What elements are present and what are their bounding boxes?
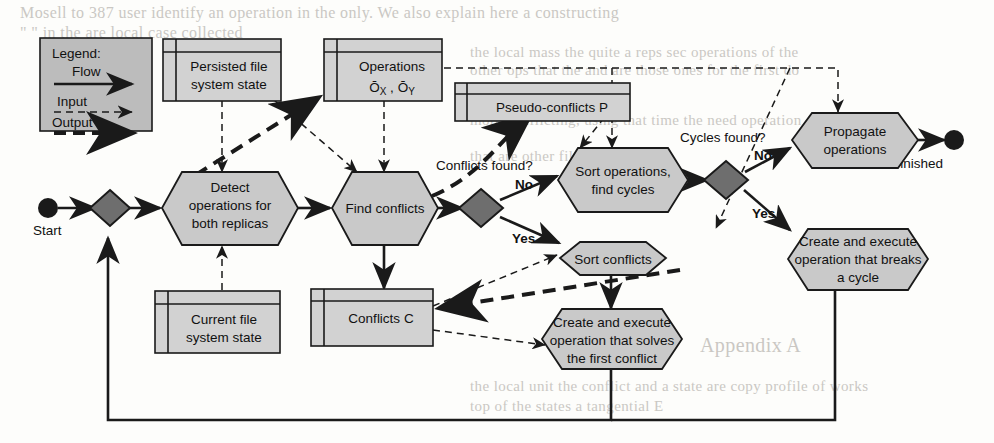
datastore-current-line2: system state [186, 330, 262, 345]
datastore-persisted-file-system-state: Persisted file system state [163, 39, 281, 101]
process-solveconflict-line3: the first conflict [567, 351, 657, 366]
operations-symbol-y: Ō [398, 80, 409, 95]
datastore-conflicts-c: Conflicts C [311, 289, 433, 346]
decision-conflicts-question: Conflicts found? [436, 158, 533, 173]
datastore-pseudo-conflicts: Pseudo-conflicts P [455, 83, 630, 121]
process-detect-operations: Detect operations for both replicas [162, 172, 298, 245]
process-sortops-line1: Sort operations, [575, 164, 670, 179]
datastore-pseudo-label: Pseudo-conflicts P [496, 100, 608, 115]
datastore-current-file-system-state: Current file system state [155, 291, 280, 353]
decision-cycles-question: Cycles found? [680, 130, 766, 145]
operations-symbol-x: Ō [369, 80, 380, 95]
datastore-operations: Operations ŌX , ŌY [324, 39, 442, 101]
edge-label-conflicts-no: No [515, 177, 533, 192]
datastore-persisted-line2: system state [191, 77, 267, 92]
process-sort-operations-find-cycles: Sort operations, find cycles [558, 148, 688, 212]
datastore-operations-title: Operations [359, 59, 425, 74]
start-label: Start [33, 223, 62, 238]
edge-input-operations-to-breakcycle [716, 68, 790, 228]
legend-output-label: Output [52, 115, 93, 130]
process-sortops-line2: find cycles [591, 182, 654, 197]
datastore-persisted-line1: Persisted file [190, 59, 267, 74]
process-propagate-line1: Propagate [824, 124, 886, 139]
edge-label-conflicts-yes: Yes [512, 231, 535, 246]
decision-cycles-found: Cycles found? No Yes [680, 130, 775, 221]
flowchart-svg: Start Finished Conflicts found? No Yes C… [0, 0, 994, 443]
decision-conflicts-found: Conflicts found? No Yes [436, 158, 535, 246]
process-detect-line1: Detect [210, 180, 249, 195]
end-node [944, 130, 964, 150]
edge-label-cycles-no: No [754, 148, 772, 163]
legend-input-label: Input [57, 94, 87, 109]
start-node [38, 198, 58, 218]
edge-label-cycles-yes: Yes [752, 206, 775, 221]
process-solveconflict-line1: Create and execute [553, 315, 671, 330]
process-sort-conflicts: Sort conflicts [560, 242, 666, 275]
process-propagate-operations: Propagate operations [792, 113, 918, 168]
edge-input-conflictsC-to-solveconflict [433, 330, 545, 345]
process-create-execute-solve-conflict: Create and execute operation that solves… [542, 309, 682, 369]
process-create-execute-break-cycle: Create and execute operation that breaks… [788, 229, 928, 290]
process-find-conflicts: Find conflicts [332, 172, 438, 245]
operations-subscript-y: Y [408, 86, 415, 97]
legend: Legend: Flow Input Output [40, 38, 152, 133]
datastore-current-line1: Current file [191, 312, 257, 327]
process-propagate-line2: operations [823, 142, 886, 157]
figure-canvas: Mosell to 387 user identify an operation… [0, 0, 994, 443]
process-breakcycle-line1: Create and execute [799, 234, 917, 249]
process-detect-line3: both replicas [192, 216, 269, 231]
process-breakcycle-line2: operation that breaks [795, 252, 922, 267]
process-breakcycle-line3: a cycle [837, 270, 879, 285]
process-solveconflict-line2: operation that solves [550, 333, 675, 348]
operations-separator: , [386, 80, 397, 95]
process-find-label: Find conflicts [346, 201, 425, 216]
junction-diamond [90, 190, 130, 226]
datastore-conflictsC-label: Conflicts C [348, 311, 414, 326]
process-sortconflicts-label: Sort conflicts [574, 252, 652, 267]
legend-heading: Legend: [52, 46, 101, 61]
legend-flow-label: Flow [72, 64, 101, 79]
process-detect-line2: operations for [189, 198, 272, 213]
edge-input-persisted-to-find [274, 100, 357, 172]
edge-input-conflictsC-to-sortconflicts [433, 255, 557, 306]
